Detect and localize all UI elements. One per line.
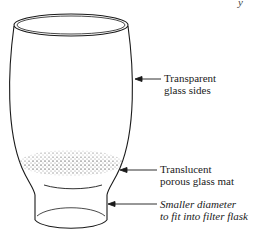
callout-stem: Smaller diameter to fit into filter flas…: [160, 198, 248, 222]
callout-mat-line1: Translucent: [160, 163, 234, 175]
filter-funnel-drawing: [0, 0, 262, 231]
callout-stem-line2: to fit into filter flask: [160, 210, 248, 222]
callout-stem-line1: Smaller diameter: [160, 198, 248, 210]
callout-mat-line2: porous glass mat: [160, 175, 234, 187]
callout-mat: Translucent porous glass mat: [160, 163, 234, 187]
funnel-body: [10, 26, 133, 220]
callout-arrows: [108, 77, 161, 207]
rim: [14, 14, 128, 36]
callout-sides-line2: glass sides: [164, 84, 216, 96]
callout-sides: Transparent glass sides: [164, 72, 216, 96]
callout-sides-line1: Transparent: [164, 72, 216, 84]
